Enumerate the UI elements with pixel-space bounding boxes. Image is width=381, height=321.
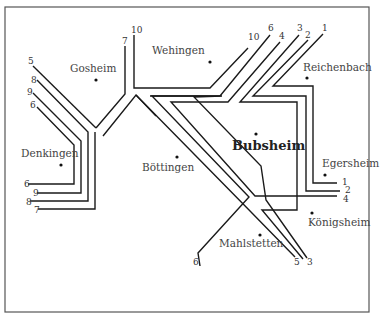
place-label-koenigsheim: Königsheim [308, 216, 370, 228]
line-label: 6 [193, 257, 199, 267]
line-label: 5 [28, 56, 34, 66]
place-dot-koenigsheim [310, 211, 313, 214]
place-dot-bubsheim [254, 132, 257, 135]
line-label: 10 [131, 25, 143, 35]
line-label: 8 [31, 75, 37, 85]
route-line-5-west [33, 66, 96, 128]
line-label: 6 [268, 23, 274, 33]
place-label-mahlstetten: Mahlstetten [219, 237, 284, 249]
place-dot-denkingen [59, 163, 62, 166]
place-dot-gosheim [94, 78, 97, 81]
route-line-3-diagonal [150, 96, 307, 258]
line-label: 6 [30, 100, 36, 110]
place-dot-boettingen [175, 155, 178, 158]
line-label: 1 [322, 23, 328, 33]
place-dot-wehingen [208, 60, 211, 63]
line-label: 8 [26, 197, 32, 207]
place-dot-reichenbach [305, 76, 308, 79]
place-label-boettingen: Böttingen [142, 161, 195, 173]
line-label: 2 [305, 30, 311, 40]
line-label: 9 [27, 87, 33, 97]
line-label: 9 [33, 188, 39, 198]
place-label-bubsheim: Bubsheim [232, 138, 306, 153]
route-diagram: Gosheim Wehingen Reichenbach Bubsheim De… [0, 0, 381, 321]
place-label-egersheim: Egersheim [322, 157, 379, 169]
place-label-gosheim: Gosheim [70, 62, 116, 74]
line-label: 7 [122, 36, 128, 46]
line-label: 4 [343, 194, 349, 204]
line-label: 6 [24, 179, 30, 189]
line-label: 3 [297, 23, 303, 33]
line-label: 10 [248, 32, 260, 42]
place-label-denkingen: Denkingen [21, 147, 79, 159]
route-line-7-west [38, 132, 95, 209]
line-label: 5 [294, 257, 300, 267]
route-line-7-north [96, 46, 125, 128]
route-line-junction [103, 95, 156, 136]
route-line-6-west [28, 107, 74, 184]
place-label-wehingen: Wehingen [152, 44, 205, 56]
line-label: 4 [279, 31, 285, 41]
route-line-10-north [134, 35, 248, 88]
place-label-reichenbach: Reichenbach [303, 61, 372, 73]
place-dot-egersheim [323, 173, 326, 176]
line-label: 7 [34, 205, 40, 215]
line-label: 3 [307, 257, 313, 267]
